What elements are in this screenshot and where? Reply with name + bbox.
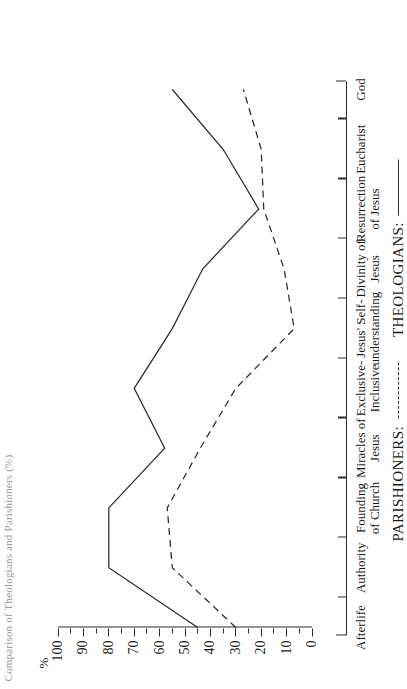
legend-entry-parishioners: PARISHIONERS: bbox=[390, 362, 407, 541]
legend-solid-line-swatch bbox=[398, 159, 399, 215]
legend-label: PARISHIONERS: bbox=[390, 425, 407, 541]
series-line-theologians bbox=[109, 89, 259, 627]
legend-label: THEOLOGIANS: bbox=[390, 222, 407, 337]
legend-dashed-line-swatch bbox=[398, 362, 399, 418]
chart-legend: PARISHIONERS:THEOLOGIANS: bbox=[390, 159, 407, 541]
legend-entry-theologians: THEOLOGIANS: bbox=[390, 159, 407, 337]
series-line-parishioners bbox=[167, 89, 294, 627]
